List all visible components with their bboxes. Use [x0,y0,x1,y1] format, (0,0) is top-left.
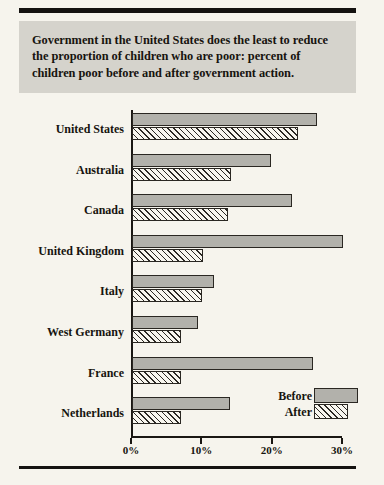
x-axis-tick-label: 30% [331,444,353,456]
bar-after [132,208,228,221]
bar-after [132,127,298,140]
bar-before [132,397,230,410]
bar-after [132,168,231,181]
category-label: United Kingdom [0,244,124,259]
bottom-rule [19,466,356,469]
legend-item-after: After [258,404,358,420]
bar-before [132,235,343,248]
bar-before [132,316,198,329]
chart-row: Australia [0,152,384,193]
category-label: United States [0,122,124,137]
chart-row: Canada [0,192,384,233]
chart-row: Italy [0,273,384,314]
bar-before [132,154,271,167]
bar-after [132,330,181,343]
category-label: West Germany [0,325,124,340]
chart-row: United States [0,111,384,152]
chart-row: West Germany [0,314,384,355]
category-label: Canada [0,203,124,218]
chart-row: United Kingdom [0,233,384,274]
bar-before [132,113,317,126]
bar-after [132,411,181,424]
x-axis-tick-label: 20% [261,444,283,456]
bar-before [132,194,292,207]
bar-before [132,357,313,370]
category-label: Netherlands [0,406,124,421]
legend-label-after: After [285,405,312,420]
x-axis-line [131,436,342,438]
category-label: Italy [0,284,124,299]
x-axis-tick-label: 0% [123,444,140,456]
bar-after [132,371,181,384]
x-axis-tick-label: 10% [190,444,212,456]
legend-label-before: Before [278,389,312,404]
bar-after [132,249,203,262]
chart-legend: Before After [258,388,358,426]
legend-item-before: Before [258,388,358,404]
legend-swatch-after [314,404,348,419]
bar-after [132,289,202,302]
category-label: Australia [0,163,124,178]
legend-swatch-before [314,388,358,403]
category-label: France [0,366,124,381]
bar-before [132,275,214,288]
